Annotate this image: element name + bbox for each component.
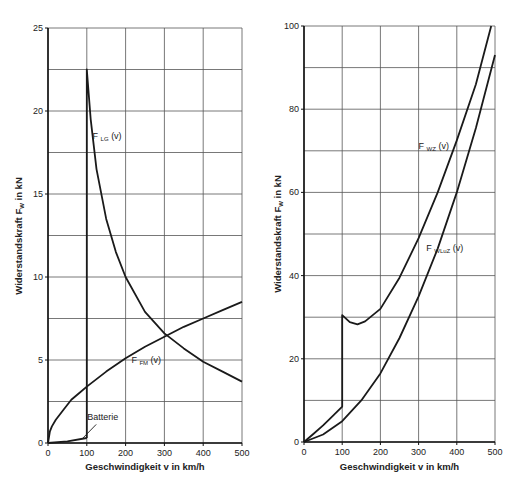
x-tick-label: 0 [301,447,306,457]
x-tick-label: 500 [487,447,502,457]
y-tick-label: 40 [289,271,299,281]
series-label: F LG (v) [93,131,122,142]
x-tick-label: 300 [157,448,172,458]
x-axis-label: Geschwindigkeit v in km/h [340,461,460,472]
y-tick-label: 20 [289,354,299,364]
y-tick-label: 25 [33,23,43,33]
y-tick-label: 10 [33,272,43,282]
x-tick-label: 200 [118,448,133,458]
y-tick-label: 5 [38,355,43,365]
grid [304,26,495,442]
x-tick-label: 200 [373,447,388,457]
x-tick-label: 400 [196,448,211,458]
x-tick-label: 100 [335,447,350,457]
series-line-f-fm-v- [48,302,242,443]
x-tick-label: 500 [234,448,249,458]
x-tick-label: 300 [411,447,426,457]
series-label: F WLuZ (v) [426,243,463,254]
y-tick-label: 100 [284,21,299,31]
y-axis-label: Widerstandskraft FW in kN [272,175,284,293]
right-chart: 0100200300400500020406080100Geschwindigk… [272,21,503,472]
chart-canvas: 01002003004005000510152025Geschwindigkei… [0,0,519,493]
left-chart: 01002003004005000510152025Geschwindigkei… [13,23,250,472]
grid [48,28,242,443]
x-axis-label: Geschwindigkeit v in km/h [85,461,205,472]
y-tick-label: 20 [33,106,43,116]
annotation-batterie: Batterie [87,412,118,422]
y-axis-label: Widerstandskraft FW in kN [13,177,25,295]
y-tick-label: 60 [289,187,299,197]
x-tick-label: 0 [45,448,50,458]
x-tick-label: 400 [449,447,464,457]
y-tick-label: 15 [33,189,43,199]
annotation-leader-line [82,424,96,438]
y-tick-label: 80 [289,104,299,114]
x-tick-label: 100 [79,448,94,458]
y-tick-label: 0 [38,438,43,448]
y-tick-label: 0 [294,437,299,447]
series-label: F FM (v) [131,355,161,366]
series-label: F WZ (v) [419,141,449,152]
